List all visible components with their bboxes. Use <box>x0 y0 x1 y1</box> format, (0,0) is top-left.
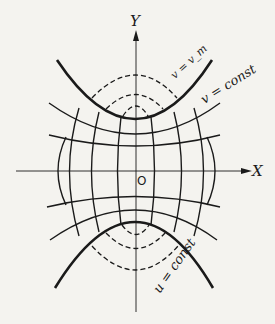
u-curve-6 <box>174 112 182 232</box>
x-axis-label: X <box>252 162 263 180</box>
u-curve-3 <box>70 108 80 236</box>
origin-label: O <box>137 174 146 188</box>
y-axis-label: Y <box>130 12 140 30</box>
dashed-lower-2 <box>106 233 165 249</box>
dashed-lower-3 <box>122 225 149 235</box>
u-curve-4 <box>194 108 204 236</box>
dashed-upper-2 <box>106 95 163 110</box>
grid-lines <box>47 103 220 240</box>
diagram-canvas <box>0 0 275 324</box>
v-curve-3 <box>47 197 220 208</box>
v-curve-2 <box>49 135 220 146</box>
axes <box>16 36 246 312</box>
dashed-upper-3 <box>123 106 148 116</box>
dashed-curves <box>92 75 178 270</box>
x-axis-arrow-icon <box>241 168 252 174</box>
y-axis-arrow-icon <box>133 30 139 41</box>
v-curve-4 <box>50 210 217 240</box>
u-curve-5 <box>92 112 100 232</box>
coordinate-diagram: Y X O v = v_m v = const u = const <box>0 0 275 324</box>
